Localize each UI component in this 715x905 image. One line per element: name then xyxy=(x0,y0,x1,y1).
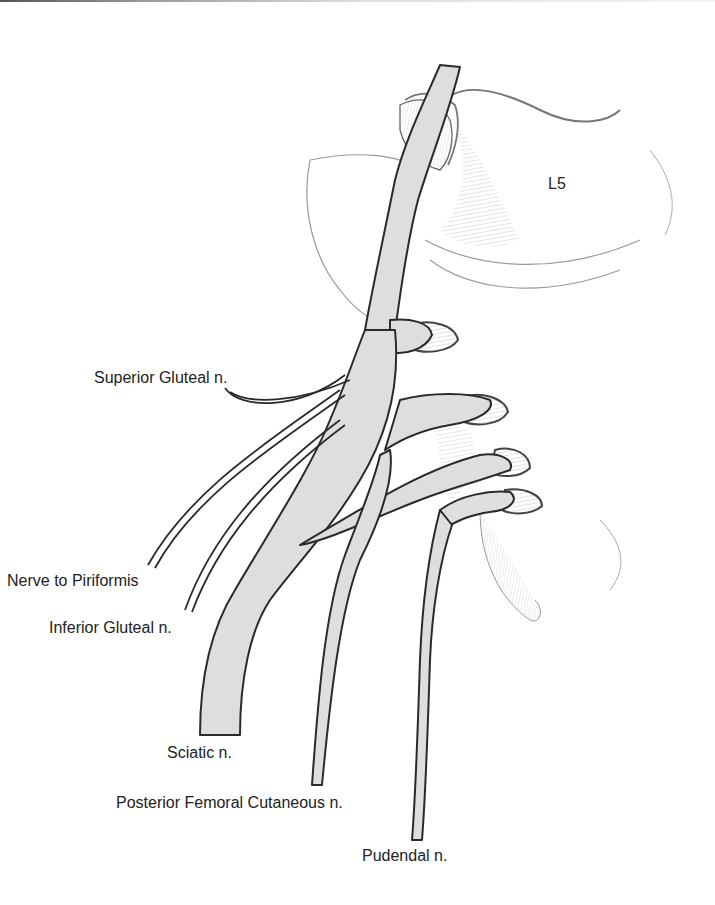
label-superior-gluteal-nerve: Superior Gluteal n. xyxy=(94,370,227,386)
label-l5: L5 xyxy=(548,176,566,192)
label-nerve-to-piriformis: Nerve to Piriformis xyxy=(7,573,139,589)
pudendal-nerve xyxy=(412,510,452,840)
nerve-illustration xyxy=(0,0,715,905)
label-sciatic-nerve: Sciatic n. xyxy=(167,745,232,761)
label-inferior-gluteal-nerve: Inferior Gluteal n. xyxy=(49,620,172,636)
label-posterior-femoral-cutaneous-nerve: Posterior Femoral Cutaneous n. xyxy=(116,795,343,811)
label-pudendal-nerve: Pudendal n. xyxy=(362,848,447,864)
